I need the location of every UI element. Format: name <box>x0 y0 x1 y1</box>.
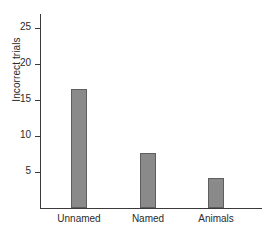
y-tick-10: 10 <box>35 136 40 137</box>
y-tick-20: 20 <box>35 64 40 65</box>
y-tick-15: 15 <box>35 100 40 101</box>
x-tick-label-animals: Animals <box>198 213 234 224</box>
x-tick-label-named: Named <box>132 213 164 224</box>
x-tick-label-unnamed: Unnamed <box>57 213 100 224</box>
y-tick-label: 5 <box>25 165 31 176</box>
bar-named <box>140 153 156 208</box>
y-tick-label: 10 <box>20 129 31 140</box>
bar-animals <box>208 178 224 208</box>
y-tick-label: 15 <box>20 93 31 104</box>
y-tick-25: 25 <box>35 28 40 29</box>
bar-chart-figure: Incorrect trials 510152025 UnnamedNamedA… <box>0 0 267 230</box>
y-tick-label: 20 <box>20 57 31 68</box>
bar-unnamed <box>71 89 87 208</box>
y-axis-line <box>40 14 41 209</box>
y-tick-5: 5 <box>35 172 40 173</box>
y-tick-label: 25 <box>20 21 31 32</box>
x-axis-line <box>40 208 262 209</box>
plot-area: 510152025 UnnamedNamedAnimals <box>40 14 262 209</box>
